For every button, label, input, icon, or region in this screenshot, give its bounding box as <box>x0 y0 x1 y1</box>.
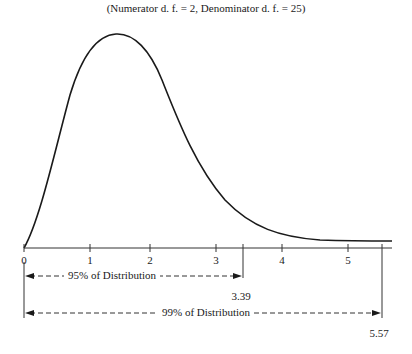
tick-label-3: 3 <box>213 254 219 266</box>
tick-label-2: 2 <box>147 254 153 266</box>
crit95-value: 3.39 <box>231 290 250 302</box>
range99-label: 99% of Distribution <box>158 306 254 318</box>
range95-label: 95% of Distribution <box>64 269 160 281</box>
density-curve <box>24 34 392 248</box>
tick-label-4: 4 <box>279 254 285 266</box>
tick-label-5: 5 <box>345 254 351 266</box>
f-distribution-plot <box>0 0 412 354</box>
crit99-value: 5.57 <box>369 327 388 339</box>
tick-label-1: 1 <box>87 254 93 266</box>
tick-label-0: 0 <box>21 254 27 266</box>
